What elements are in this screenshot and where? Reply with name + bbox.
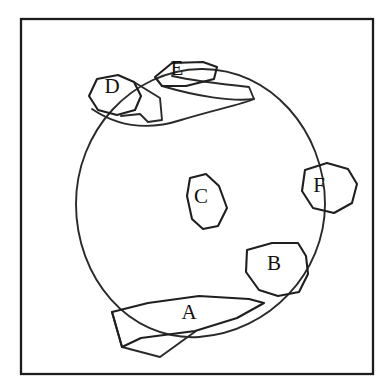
region-label-c: C (194, 184, 208, 208)
diagram-svg: ABCDEF (0, 0, 391, 391)
region-label-e: E (171, 56, 184, 80)
region-polygon-f (302, 163, 357, 213)
region-label-a: A (181, 300, 197, 324)
stroke-upper-sweep (92, 99, 254, 126)
stroke-d-tail (121, 82, 162, 122)
region-labels-group: ABCDEF (104, 56, 324, 324)
region-label-b: B (267, 251, 281, 275)
region-label-f: F (313, 173, 325, 197)
regions-group (89, 62, 357, 347)
extra-strokes-group (92, 76, 254, 357)
figure-container: ABCDEF (0, 0, 391, 391)
region-label-d: D (104, 74, 119, 98)
